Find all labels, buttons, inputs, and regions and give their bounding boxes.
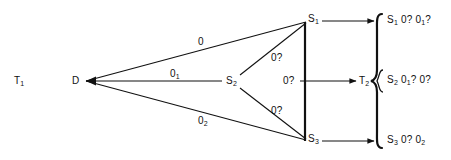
figure-canvas: T1 D S1 S2 S3 T2 0 01 02 0? 0? 0? S1 0? … xyxy=(0,0,451,160)
node-source-d: D xyxy=(72,75,79,86)
output-label-s2: S2 01? 0? xyxy=(387,74,431,85)
edge-label-brace-mid: 0? xyxy=(283,75,295,86)
edge-label-d-s1: 0 xyxy=(198,36,204,47)
node-s3: S3 xyxy=(308,133,319,144)
output-label-s1: S1 0? 01? xyxy=(387,14,431,25)
edge-group-s2 xyxy=(240,23,306,139)
output-label-s3: S3 0? 02 xyxy=(387,134,425,145)
edge-label-d-s3: 02 xyxy=(198,115,208,126)
node-s2: S2 xyxy=(226,75,237,86)
node-t2: T2 xyxy=(359,75,369,86)
edge-group-source xyxy=(86,22,306,140)
node-s1: S1 xyxy=(308,13,319,24)
arrowhead-d xyxy=(86,77,96,86)
edge-label-d-s2: 01 xyxy=(170,68,180,79)
figure-title: T1 xyxy=(14,75,24,86)
edge-label-s2-s1: 0? xyxy=(271,52,283,63)
t2-brace xyxy=(377,70,383,92)
edge-label-s2-s3: 0? xyxy=(271,105,283,116)
source-arrowheads xyxy=(86,77,96,86)
